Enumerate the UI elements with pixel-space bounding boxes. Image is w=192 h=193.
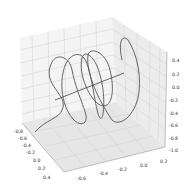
svg-text:-0.4: -0.4 xyxy=(169,111,178,116)
svg-text:-0.4: -0.4 xyxy=(22,143,31,148)
svg-text:0.2: 0.2 xyxy=(160,159,167,164)
svg-text:-0.4: -0.4 xyxy=(99,171,108,176)
svg-text:-1.0: -1.0 xyxy=(169,148,178,153)
svg-text:0.0: 0.0 xyxy=(33,158,40,163)
svg-text:0.0: 0.0 xyxy=(172,85,179,90)
svg-text:-0.6: -0.6 xyxy=(77,176,86,181)
svg-text:0.4: 0.4 xyxy=(43,175,50,180)
z-tick-labels: 0.4 0.2 0.0 -0.2 -0.4 -0.6 -0.8 -1.0 xyxy=(169,58,179,153)
svg-text:-0.6: -0.6 xyxy=(169,123,178,128)
svg-text:0.2: 0.2 xyxy=(172,72,179,77)
3d-line-chart: -0.8 -0.6 -0.4 -0.2 0.0 0.2 0.4 -0.6 -0.… xyxy=(0,0,192,193)
svg-text:-0.2: -0.2 xyxy=(26,150,35,155)
svg-text:0.2: 0.2 xyxy=(38,166,45,171)
svg-text:-0.2: -0.2 xyxy=(118,167,127,172)
svg-text:-0.8: -0.8 xyxy=(14,129,23,134)
svg-text:-0.2: -0.2 xyxy=(169,98,178,103)
svg-text:0.0: 0.0 xyxy=(140,163,147,168)
svg-text:0.4: 0.4 xyxy=(172,58,179,63)
axis-panes xyxy=(20,17,167,172)
svg-text:-0.6: -0.6 xyxy=(18,136,27,141)
svg-text:-0.8: -0.8 xyxy=(169,136,178,141)
